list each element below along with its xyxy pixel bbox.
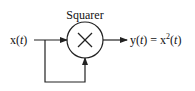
input-label: x(t) (10, 33, 27, 47)
squarer-diagram: Squarer x(t) y(t) = x2(t) (0, 0, 195, 91)
block-label: Squarer (66, 8, 103, 22)
output-label: y(t) = x2(t) (130, 32, 181, 47)
